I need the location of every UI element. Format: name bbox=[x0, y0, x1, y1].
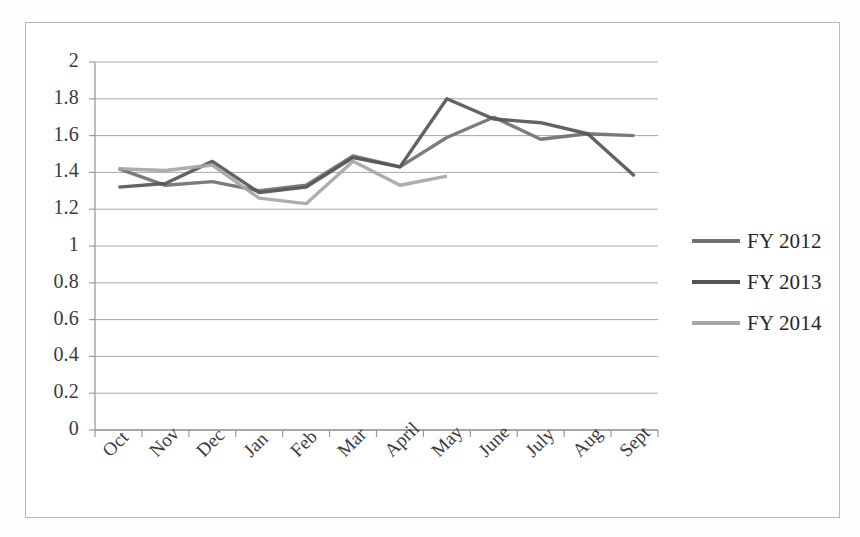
y-axis-tick-label: 1.4 bbox=[27, 159, 79, 182]
legend-color-swatch bbox=[692, 321, 740, 325]
y-axis-tick-label: 0.2 bbox=[27, 380, 79, 403]
y-axis-tick-label: 1.8 bbox=[27, 86, 79, 109]
series-line-fy-2013 bbox=[118, 99, 634, 193]
y-axis-tick-marks bbox=[89, 62, 95, 430]
y-axis-tick-label: 0.6 bbox=[27, 307, 79, 330]
chart-page: 21.81.61.41.210.80.60.40.20 OctNovDecJan… bbox=[0, 0, 860, 537]
legend-item: FY 2012 bbox=[692, 230, 822, 252]
legend-item: FY 2014 bbox=[692, 312, 822, 334]
y-axis-tick-label: 2 bbox=[27, 49, 79, 72]
legend-item: FY 2013 bbox=[692, 271, 822, 293]
y-axis-tick-label: 0.4 bbox=[27, 343, 79, 366]
legend-color-swatch bbox=[692, 239, 740, 243]
y-axis-tick-label: 1.2 bbox=[27, 196, 79, 219]
data-series-group bbox=[118, 99, 634, 204]
y-axis-tick-label: 0.8 bbox=[27, 270, 79, 293]
plot-area bbox=[0, 0, 860, 537]
y-axis-tick-label: 1 bbox=[27, 233, 79, 256]
legend-label: FY 2013 bbox=[747, 270, 822, 295]
legend-label: FY 2014 bbox=[747, 311, 822, 336]
line-chart-canvas bbox=[0, 0, 860, 537]
y-axis-tick-label: 1.6 bbox=[27, 123, 79, 146]
legend-color-swatch bbox=[692, 280, 740, 284]
gridlines bbox=[95, 62, 658, 430]
y-axis-tick-label: 0 bbox=[27, 417, 79, 440]
legend-label: FY 2012 bbox=[747, 229, 822, 254]
